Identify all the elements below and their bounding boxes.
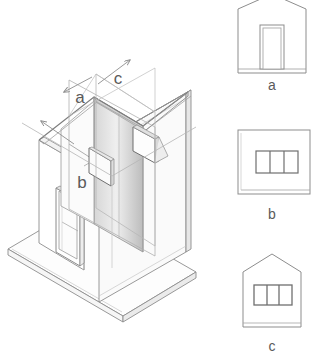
iso-label-a: a [75, 88, 85, 107]
isometric-drawing: a c b [8, 60, 196, 322]
elevation-b: b [238, 130, 310, 222]
architectural-drawing-canvas: a c b a b c [0, 0, 319, 357]
iso-label-c: c [114, 69, 123, 88]
elevation-a-label: a [268, 77, 276, 93]
elevation-a: a [238, 0, 306, 93]
elevation-b-label: b [268, 206, 276, 222]
elevation-c-window [254, 285, 292, 305]
elevation-c-label: c [269, 338, 276, 354]
iso-label-b: b [77, 173, 86, 192]
elevation-c: c [243, 254, 301, 354]
elevation-b-window [256, 151, 298, 173]
